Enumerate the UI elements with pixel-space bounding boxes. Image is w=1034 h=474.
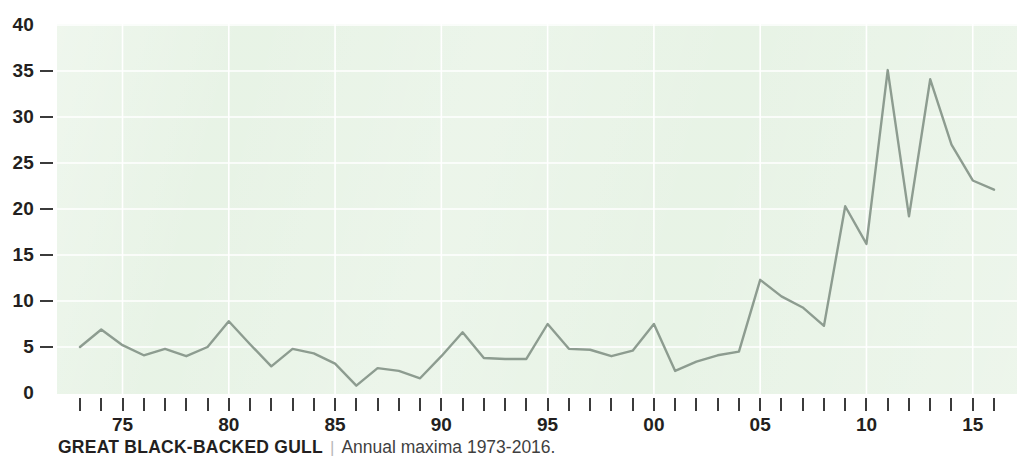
chart-figure: 0510152025303540 758085909500051015 GREA… (0, 0, 1034, 474)
y-tick-mark (40, 300, 53, 302)
x-tick-mark (504, 398, 506, 411)
x-tick-mark (483, 398, 485, 411)
x-tick-label: 10 (856, 414, 877, 436)
x-tick-mark (143, 398, 145, 411)
x-tick-mark (270, 398, 272, 411)
x-tick-mark (950, 398, 952, 411)
x-tick-mark (100, 398, 102, 411)
x-tick-mark (462, 398, 464, 411)
x-tick-mark (610, 398, 612, 411)
y-tick-mark (40, 70, 53, 72)
y-tick-mark (40, 162, 53, 164)
x-tick-mark (823, 398, 825, 411)
caption-subtitle: Annual maxima 1973-2016. (341, 437, 555, 458)
plot-area (57, 24, 1017, 394)
caption-title: GREAT BLACK-BACKED GULL (58, 437, 323, 458)
x-tick-mark (738, 398, 740, 411)
x-tick-label: 15 (962, 414, 983, 436)
y-tick-mark (40, 208, 53, 210)
y-tick-label: 5 (23, 336, 34, 358)
x-tick-mark (759, 398, 761, 411)
y-tick-mark (40, 116, 53, 118)
x-tick-mark (249, 398, 251, 411)
y-axis: 0510152025303540 (0, 0, 57, 420)
x-tick-mark (207, 398, 209, 411)
x-tick-label: 00 (643, 414, 664, 436)
x-tick-mark (929, 398, 931, 411)
x-tick-label: 05 (750, 414, 771, 436)
x-tick-label: 80 (218, 414, 239, 436)
x-tick-mark (865, 398, 867, 411)
y-tick-label: 30 (12, 106, 34, 128)
x-tick-mark (547, 398, 549, 411)
x-tick-mark (972, 398, 974, 411)
x-tick-mark (674, 398, 676, 411)
y-tick-mark (40, 254, 53, 256)
x-axis: 758085909500051015 (0, 394, 1034, 440)
x-tick-mark (122, 398, 124, 411)
x-tick-mark (780, 398, 782, 411)
y-tick-label: 25 (12, 152, 34, 174)
y-tick-label: 35 (12, 60, 34, 82)
y-tick-label: 15 (12, 244, 34, 266)
x-tick-mark (355, 398, 357, 411)
x-tick-mark (632, 398, 634, 411)
x-tick-label: 75 (112, 414, 133, 436)
x-tick-mark (419, 398, 421, 411)
x-tick-mark (228, 398, 230, 411)
x-tick-mark (79, 398, 81, 411)
x-tick-mark (802, 398, 804, 411)
x-tick-mark (568, 398, 570, 411)
x-tick-mark (334, 398, 336, 411)
caption-divider: | (330, 438, 334, 458)
x-tick-label: 95 (537, 414, 558, 436)
x-tick-mark (717, 398, 719, 411)
x-tick-mark (398, 398, 400, 411)
x-tick-mark (993, 398, 995, 411)
y-tick-label: 20 (12, 198, 34, 220)
x-tick-mark (844, 398, 846, 411)
x-tick-mark (313, 398, 315, 411)
y-tick-label: 10 (12, 290, 34, 312)
x-tick-mark (695, 398, 697, 411)
x-tick-mark (653, 398, 655, 411)
x-tick-mark (589, 398, 591, 411)
series-line-annual-maxima (57, 24, 1017, 394)
x-tick-label: 85 (324, 414, 345, 436)
x-tick-mark (377, 398, 379, 411)
x-tick-mark (164, 398, 166, 411)
y-tick-mark (40, 346, 53, 348)
x-tick-label: 90 (431, 414, 452, 436)
x-tick-mark (887, 398, 889, 411)
y-tick-label: 40 (12, 14, 34, 36)
caption: GREAT BLACK-BACKED GULL | Annual maxima … (58, 437, 555, 458)
x-tick-mark (292, 398, 294, 411)
x-tick-mark (185, 398, 187, 411)
x-tick-mark (525, 398, 527, 411)
x-tick-mark (908, 398, 910, 411)
x-tick-mark (440, 398, 442, 411)
